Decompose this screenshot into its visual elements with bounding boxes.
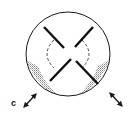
diagram-canvas: c [0,0,132,115]
double-arrow-right-icon [110,93,122,106]
shade-lower-left [26,60,60,97]
dashed-arc-right [82,40,89,68]
line-bottom-right [76,61,98,84]
double-arrow-left-icon [24,94,36,107]
label-c: c [11,98,16,108]
dashed-arc-left [47,40,54,68]
cross-lines [44,27,98,84]
shaded-rim-regions [26,60,110,97]
line-bottom-left [50,59,71,81]
line-top-right [75,27,93,47]
line-top-left [44,27,64,48]
